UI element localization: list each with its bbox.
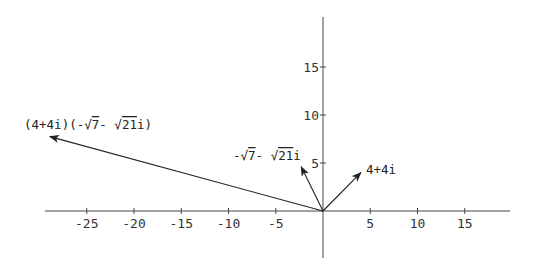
label-product-start: (4+4i)(-	[24, 117, 84, 132]
x-tick-label: -10	[217, 216, 240, 231]
label-z2-mid: -	[256, 148, 271, 163]
label-z2-radicand-b: 21	[278, 148, 293, 163]
complex-plane-plot: -25-20-15-10-551015 51015 4+4i -√7- √21i…	[0, 0, 537, 269]
x-tick-label: -20	[122, 216, 145, 231]
label-product: (4+4i)(-√7- √21i)	[24, 117, 152, 132]
label-z2-radicand-a: 7	[248, 148, 256, 163]
label-product-radicand-b: 21	[122, 117, 137, 132]
label-z2-prefix: -	[233, 148, 241, 163]
x-tick-label: 5	[366, 216, 374, 231]
x-tick-label: -25	[75, 216, 98, 231]
vector-4-plus-4i	[323, 173, 361, 211]
x-tick-label: 10	[410, 216, 426, 231]
label-product-end: i)	[137, 117, 152, 132]
label-product-radicand-a: 7	[92, 117, 100, 132]
label-neg-sqrt7-sqrt21i: -√7- √21i	[233, 148, 301, 163]
x-tick-label: -5	[268, 216, 284, 231]
label-4-plus-4i: 4+4i	[366, 162, 396, 177]
x-tick-label: 15	[457, 216, 473, 231]
label-4-plus-4i-text: 4+4i	[366, 162, 396, 177]
y-tick-label: 5	[311, 156, 319, 171]
y-tick-label: 10	[303, 108, 319, 123]
y-tick-label: 15	[303, 60, 319, 75]
label-product-mid: -	[99, 117, 114, 132]
vector-neg-sqrt7-sqrt21i	[301, 167, 323, 211]
label-z2-suffix: i	[293, 148, 301, 163]
x-tick-label: -15	[170, 216, 193, 231]
